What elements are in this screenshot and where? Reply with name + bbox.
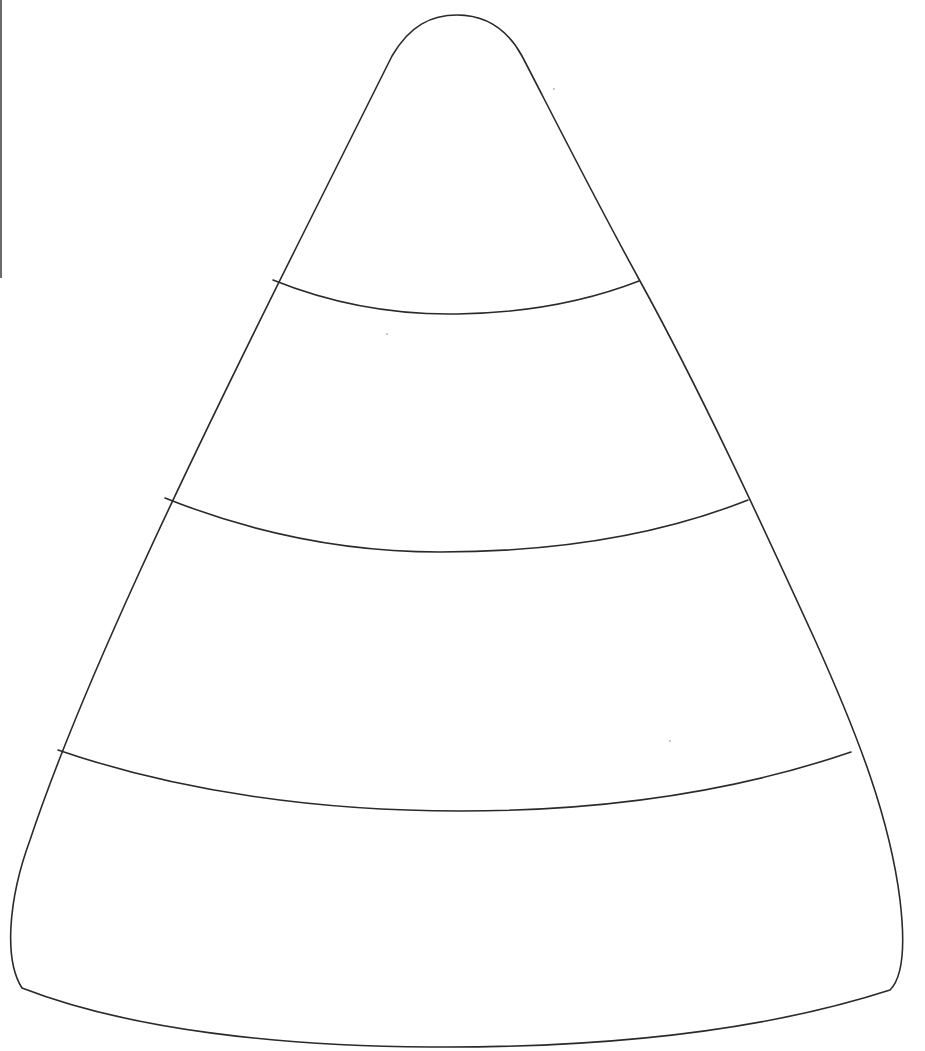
coloring-page xyxy=(0,0,925,1051)
paper-speck xyxy=(553,88,555,90)
band-line-1 xyxy=(273,280,639,314)
paper-speck xyxy=(669,740,671,742)
band-line-3 xyxy=(58,750,851,811)
candy-corn-outline xyxy=(11,15,903,1047)
band-line-2 xyxy=(165,498,748,552)
paper-speck xyxy=(386,333,388,335)
candy-corn-drawing xyxy=(0,0,925,1051)
